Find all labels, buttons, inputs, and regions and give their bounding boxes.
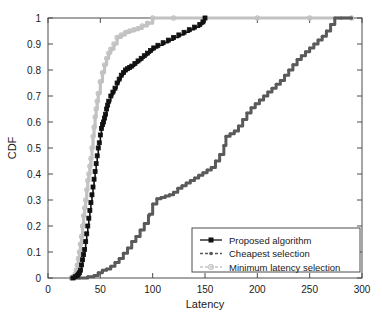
series-marker	[111, 90, 115, 94]
series-marker	[187, 28, 191, 32]
series-marker	[241, 118, 244, 121]
series-marker	[300, 54, 303, 57]
series-marker	[83, 247, 87, 251]
series-marker	[160, 196, 163, 199]
series-marker	[203, 16, 207, 20]
series-marker	[103, 116, 107, 120]
series-marker	[104, 112, 108, 116]
series-marker	[233, 130, 236, 133]
series-marker	[180, 184, 183, 187]
series-marker	[161, 41, 165, 45]
series-marker	[86, 275, 89, 278]
series-marker	[287, 69, 290, 72]
series-marker	[156, 43, 160, 47]
x-tick-label: 50	[95, 284, 107, 295]
cdf-chart-figure: 050100150200250300 00.10.20.30.40.50.60.…	[0, 0, 382, 321]
series-marker	[262, 95, 265, 98]
series-marker	[148, 213, 151, 216]
legend-marker	[209, 238, 214, 243]
series-marker	[176, 187, 179, 190]
series-marker	[155, 197, 158, 200]
series-marker	[340, 17, 343, 20]
x-tick-label: 0	[45, 284, 51, 295]
series-marker	[81, 258, 85, 262]
series-marker	[82, 253, 86, 257]
series-marker	[134, 235, 137, 238]
series-marker	[210, 166, 213, 169]
series-marker	[101, 120, 105, 124]
series-marker	[193, 176, 196, 179]
series-marker	[118, 257, 121, 260]
y-tick-label: 1	[35, 13, 41, 24]
series-marker	[193, 25, 197, 29]
series-marker	[109, 94, 113, 98]
series-marker	[88, 208, 92, 212]
series-marker	[115, 81, 119, 85]
series-marker	[250, 106, 253, 109]
series-marker	[143, 222, 146, 225]
series-marker	[109, 265, 112, 268]
series-marker	[222, 144, 225, 147]
series-marker	[152, 46, 156, 50]
series-marker	[266, 91, 269, 94]
series-marker	[312, 43, 315, 46]
series-marker	[78, 268, 82, 272]
series-marker	[189, 179, 192, 182]
series-marker	[117, 77, 121, 81]
series-marker	[90, 193, 94, 197]
series-marker	[97, 271, 100, 274]
series-marker	[206, 169, 209, 172]
series-marker	[197, 174, 200, 177]
x-tick-label: 250	[301, 284, 318, 295]
y-tick-label: 0.8	[27, 65, 41, 76]
series-marker	[98, 133, 102, 137]
y-tick-label: 0.5	[27, 143, 41, 154]
series-marker	[139, 228, 142, 231]
series-marker	[237, 124, 240, 127]
y-tick-label: 0.2	[27, 221, 41, 232]
x-tick-label: 150	[197, 284, 214, 295]
series-marker	[218, 153, 221, 156]
y-tick-label: 0.6	[27, 117, 41, 128]
series-marker	[214, 160, 217, 163]
x-tick-label: 100	[144, 284, 161, 295]
series-marker	[317, 39, 320, 42]
series-marker	[270, 87, 273, 90]
series-marker	[275, 83, 278, 86]
series-marker	[291, 63, 294, 66]
series-marker	[164, 195, 167, 198]
y-tick-label: 0.3	[27, 195, 41, 206]
series-marker	[96, 146, 100, 150]
series-marker	[304, 50, 307, 53]
x-axis-title: Latency	[186, 298, 225, 310]
series-marker	[201, 171, 204, 174]
series-marker	[279, 79, 282, 82]
series-marker	[296, 58, 299, 61]
y-axis-title: CDF	[6, 136, 18, 159]
series-marker	[151, 202, 154, 205]
series-marker	[122, 252, 125, 255]
series-marker	[229, 132, 232, 135]
series-marker	[224, 135, 227, 138]
series-marker	[130, 240, 133, 243]
series-marker	[172, 191, 175, 194]
legend-entry-label: Cheapest selection	[229, 248, 310, 259]
series-marker	[177, 33, 181, 37]
series-marker	[95, 154, 99, 158]
series-marker	[350, 17, 353, 20]
series-marker	[172, 36, 176, 40]
series-marker	[113, 86, 117, 90]
legend[interactable]: Proposed algorithmCheapest selectionMini…	[192, 228, 360, 273]
series-marker	[113, 261, 116, 264]
series-marker	[185, 182, 188, 185]
series-marker	[201, 20, 205, 24]
chart-canvas: 050100150200250300 00.10.20.30.40.50.60.…	[0, 0, 382, 321]
series-marker	[89, 201, 93, 205]
x-tick-label: 200	[249, 284, 266, 295]
y-tick-label: 0.9	[27, 39, 41, 50]
series-marker	[308, 46, 311, 49]
series-marker	[84, 240, 88, 244]
series-marker	[99, 127, 103, 131]
series-marker	[166, 38, 170, 42]
series-marker	[106, 103, 110, 107]
